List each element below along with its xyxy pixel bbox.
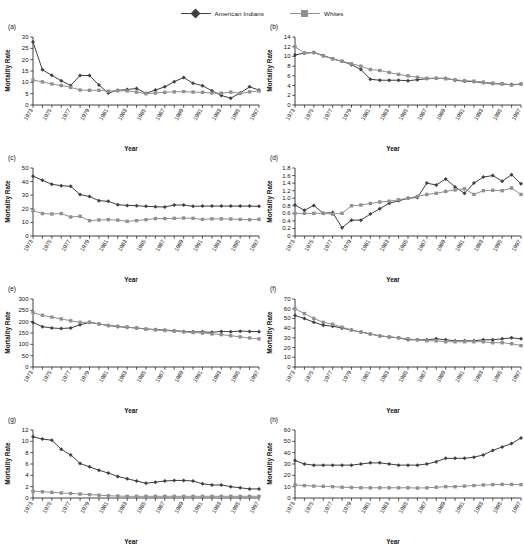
chart-panel-d: (d)Mortality RateYear00.20.40.60.81.01.2… [262,153,524,284]
data-point-marker [144,204,148,208]
x-tick-label: 1987 [154,239,165,253]
x-tick-label: 1985 [397,108,408,122]
data-point-marker [463,79,466,82]
y-tick-label: 1.4 [282,180,291,186]
x-tick-label: 1975 [41,370,52,384]
y-tick-label: 1.6 [282,173,291,179]
data-point-marker [88,89,91,92]
x-tick-label: 1991 [454,239,465,253]
data-point-marker [201,218,204,221]
data-point-marker [97,322,100,325]
data-point-marker [359,64,362,67]
data-point-marker [350,328,353,331]
y-tick-label: 20 [22,57,29,63]
data-point-marker [163,329,166,332]
x-tick-label: 1983 [117,239,128,253]
data-point-marker [201,91,204,94]
x-tick-label: 1975 [303,239,314,253]
data-point-marker [153,480,157,484]
data-point-marker [500,337,504,341]
data-point-marker [406,74,409,77]
data-point-marker [191,495,194,498]
chart-panel-e: (e)Mortality RateYear0501001502002503001… [0,284,262,415]
panel-label: (e) [8,285,16,292]
chart-svg: 0246810121419731975197719791981198319851… [273,31,524,153]
data-point-marker [425,486,428,489]
data-point-marker [97,468,101,472]
data-point-marker [397,198,400,201]
data-point-marker [387,200,390,203]
y-tick-label: 15 [22,68,29,74]
data-point-marker [359,203,362,206]
data-point-marker [472,484,475,487]
data-point-marker [229,485,233,489]
data-point-marker [78,215,81,218]
data-point-marker [191,90,194,93]
chart-panel-c: (c)Mortality RateYear0102030405019731975… [0,153,262,284]
data-point-marker [97,493,100,496]
x-tick-label: 1979 [341,239,352,253]
x-tick-label: 1977 [322,370,333,384]
data-point-marker [116,218,119,221]
data-point-marker [59,184,63,188]
data-point-marker [59,326,63,330]
data-point-marker [31,490,34,493]
data-point-marker [472,80,475,83]
data-point-marker [331,485,334,488]
chart-svg: 0102030405060197319751977197919811983198… [273,424,524,546]
x-tick-label: 1983 [117,108,128,122]
data-point-marker [257,204,261,208]
series-line-whites [33,313,259,339]
x-tick-label: 1973 [284,239,295,253]
y-tick-label: 50 [22,353,29,359]
y-tick-label: 1.2 [282,188,291,194]
data-point-marker [416,195,419,198]
panel-label: (h) [270,416,278,423]
data-point-marker [125,220,128,223]
data-point-marker [144,327,147,330]
y-tick-label: 10 [22,79,29,85]
data-point-marker [519,483,522,486]
data-point-marker [182,330,185,333]
data-point-marker [125,495,128,498]
y-tick-label: 100 [18,341,29,347]
x-tick-label: 1993 [211,108,222,122]
data-point-marker [107,89,110,92]
data-point-marker [519,337,523,341]
data-point-marker [144,481,148,485]
data-point-marker [406,463,410,467]
x-tick-label: 1973 [22,370,33,384]
y-tick-label: 70 [284,296,291,302]
legend-label: American Indians [215,10,264,17]
data-point-marker [163,85,167,89]
panel-label: (c) [8,154,16,161]
data-point-marker [219,329,223,333]
data-point-marker [257,218,260,221]
plot-area: Mortality RateYear0246810121419731975197… [262,31,524,153]
y-tick-label: 8 [25,450,29,456]
data-point-marker [387,71,390,74]
data-point-marker [154,495,157,498]
x-tick-label: 1977 [60,239,71,253]
data-point-marker [416,486,419,489]
x-tick-label: 1997 [248,239,259,253]
data-point-marker [210,483,214,487]
data-point-marker [153,205,157,209]
data-point-marker [59,79,63,83]
x-tick-label: 1987 [154,501,165,515]
x-tick-label: 1975 [41,239,52,253]
data-point-marker [406,79,410,83]
y-tick-label: 20 [22,206,29,212]
x-tick-label: 1991 [192,108,203,122]
x-tick-label: 1997 [510,239,521,253]
data-point-marker [500,445,504,449]
x-tick-label: 1981 [98,239,109,253]
data-point-marker [97,89,100,92]
data-point-marker [369,68,372,71]
x-tick-label: 1995 [230,370,241,384]
data-point-marker [31,78,34,81]
data-point-marker [229,330,233,334]
x-tick-label: 1983 [379,239,390,253]
y-tick-label: 0 [25,233,29,239]
data-point-marker [416,76,419,79]
